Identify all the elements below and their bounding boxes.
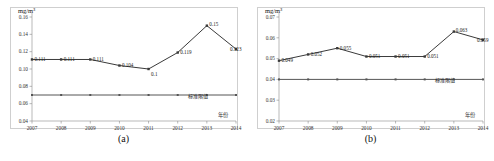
x-tick-label: 2011 xyxy=(384,125,408,131)
data-point-label: 0.051 xyxy=(369,53,380,59)
y-tick-label: 0.02 xyxy=(249,118,275,124)
x-tick-label: 2008 xyxy=(49,125,73,131)
y-tick-label: 0.12 xyxy=(2,48,28,54)
data-point-label: 0.1 xyxy=(151,71,157,77)
reference-line-label: 标准限值 xyxy=(435,76,455,83)
y-tick-label: 0.04 xyxy=(2,118,28,124)
x-axis-title: 年份 xyxy=(465,111,475,119)
data-point-label: 0.055 xyxy=(340,45,351,51)
data-point-label: 0.104 xyxy=(122,62,133,68)
data-point-label: 0.063 xyxy=(456,27,467,33)
x-axis-title: 年份 xyxy=(218,111,228,119)
x-tick-label: 2014 xyxy=(224,125,248,131)
x-tick-label: 2008 xyxy=(296,125,320,131)
panel-caption-b: (b) xyxy=(247,133,494,144)
y-tick-label: 0.08 xyxy=(2,83,28,89)
x-tick-label: 2007 xyxy=(267,125,291,131)
x-tick-label: 2013 xyxy=(195,125,219,131)
y-tick-label: 0.10 xyxy=(2,66,28,72)
x-tick-label: 2012 xyxy=(166,125,190,131)
x-tick-label: 2009 xyxy=(325,125,349,131)
y-tick-label: 0.16 xyxy=(2,14,28,20)
y-tick-label: 0.03 xyxy=(249,97,275,103)
figure-container: mg/m³ (a) 0.160.140.120.100.080.060.0420… xyxy=(0,0,494,161)
x-tick-label: 2012 xyxy=(413,125,437,131)
data-point-label: 0.119 xyxy=(180,49,191,55)
x-tick-label: 2011 xyxy=(137,125,161,131)
data-point-label: 0.059 xyxy=(477,37,488,43)
data-point-label: 0.051 xyxy=(398,53,409,59)
data-point-label: 0.052 xyxy=(311,51,322,57)
reference-line-label: 标准限值 xyxy=(188,92,208,99)
data-point-label: 0.111 xyxy=(64,56,75,62)
y-tick-label: 0.04 xyxy=(249,76,275,82)
data-point-label: 0.123 xyxy=(230,46,241,52)
x-tick-label: 2009 xyxy=(78,125,102,131)
x-tick-label: 2010 xyxy=(354,125,378,131)
data-point-label: 0.111 xyxy=(93,56,104,62)
chart-panel-b: mg/m³ (b) 0.070.060.050.040.030.02200720… xyxy=(247,0,494,161)
x-tick-label: 2013 xyxy=(442,125,466,131)
data-point-label: 0.049 xyxy=(282,57,293,63)
y-tick-label: 0.06 xyxy=(249,35,275,41)
data-point-label: 0.111 xyxy=(35,56,46,62)
data-point-label: 0.051 xyxy=(427,53,438,59)
x-tick-label: 2007 xyxy=(20,125,44,131)
x-tick-label: 2010 xyxy=(107,125,131,131)
chart-panel-a: mg/m³ (a) 0.160.140.120.100.080.060.0420… xyxy=(0,0,247,161)
y-tick-label: 0.06 xyxy=(2,100,28,106)
data-point-label: 0.15 xyxy=(209,21,218,27)
panel-caption-a: (a) xyxy=(0,133,247,144)
y-tick-label: 0.14 xyxy=(2,31,28,37)
x-tick-label: 2014 xyxy=(471,125,494,131)
y-tick-label: 0.05 xyxy=(249,55,275,61)
y-tick-label: 0.07 xyxy=(249,14,275,20)
